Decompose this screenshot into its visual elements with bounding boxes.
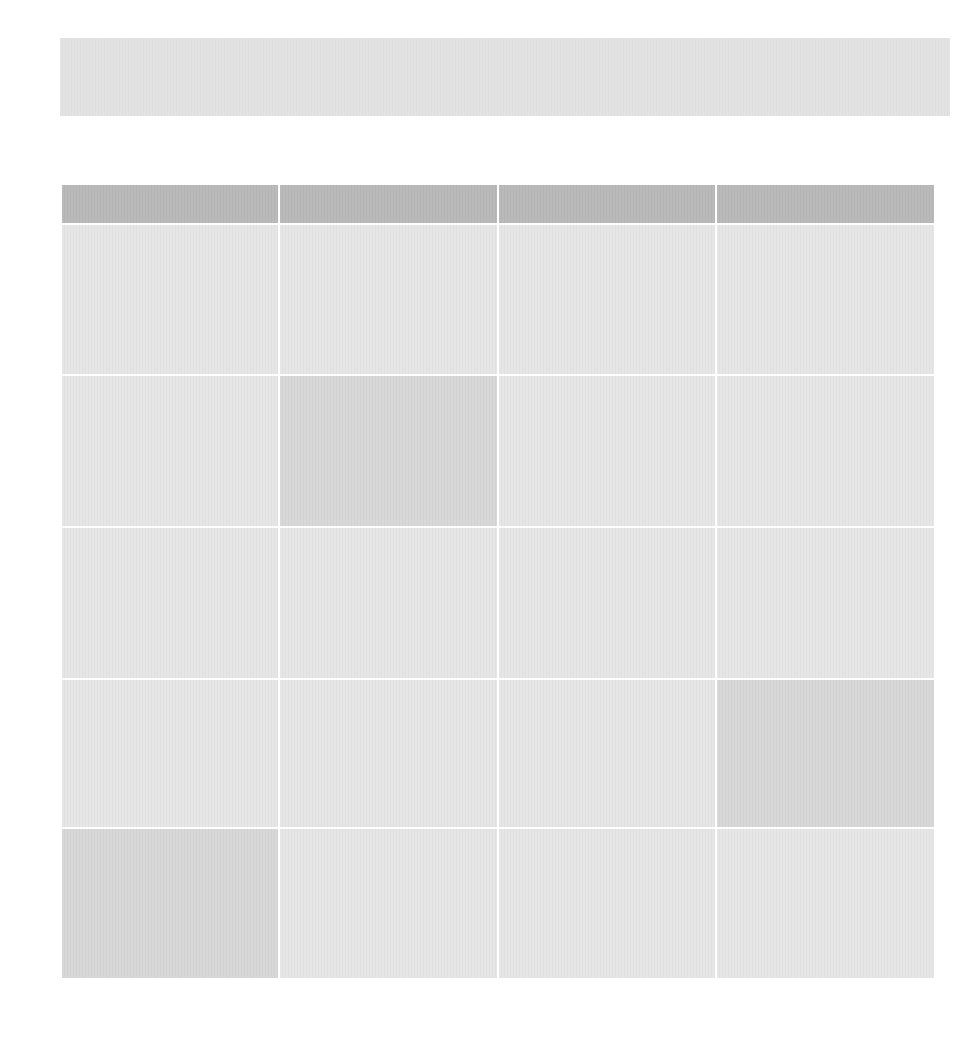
table-cell <box>62 376 278 526</box>
table-cell <box>280 225 497 374</box>
table-cell-highlighted <box>717 680 934 827</box>
table-cell <box>280 829 497 978</box>
table-cell <box>499 680 715 827</box>
table-cell <box>717 225 934 374</box>
table-cell <box>499 528 715 678</box>
column-header <box>717 185 934 223</box>
table-cell-highlighted <box>280 376 497 526</box>
table-cell <box>717 829 934 978</box>
placeholder-table <box>62 185 934 980</box>
column-header <box>62 185 278 223</box>
column-header <box>280 185 497 223</box>
table-cell <box>499 225 715 374</box>
table-cell <box>717 376 934 526</box>
table-cell <box>499 829 715 978</box>
table-cell <box>62 680 278 827</box>
table-cell <box>62 528 278 678</box>
top-banner <box>60 38 950 116</box>
table-cell <box>280 528 497 678</box>
table-cell <box>280 680 497 827</box>
table-cell <box>499 376 715 526</box>
table-cell <box>717 528 934 678</box>
table-cell <box>62 225 278 374</box>
column-header <box>499 185 715 223</box>
table-cell-highlighted <box>62 829 278 978</box>
